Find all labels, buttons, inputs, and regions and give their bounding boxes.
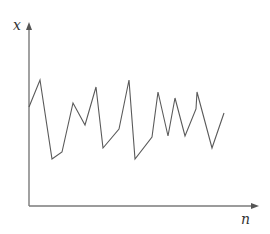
x-axis-arrow-icon [251,203,259,209]
series-line [29,80,224,159]
x-axis-label: n [241,212,250,226]
y-axis-arrow-icon [26,22,32,30]
line-chart [0,0,270,234]
y-axis-label: x [13,18,21,32]
